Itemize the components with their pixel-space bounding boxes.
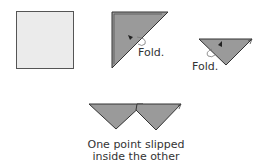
square-paper [17,12,74,69]
joined-triangles [89,104,181,130]
caption-line2: inside the other [76,151,196,163]
fold-label-step2: Fold. [138,47,164,59]
fold-label-step3: Fold. [192,61,218,73]
folded-diagonal-triangle [112,12,168,68]
